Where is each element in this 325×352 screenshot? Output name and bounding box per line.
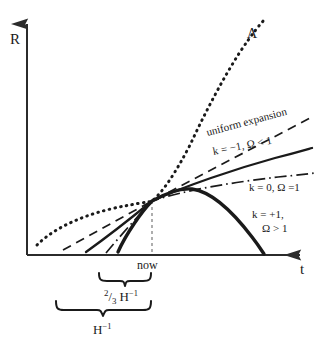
plot-canvas xyxy=(0,0,325,352)
k-positive-label-line1: k = +1, xyxy=(252,209,284,220)
brace-two-thirds-h-inverse xyxy=(99,273,151,286)
fraction-denominator: 3 xyxy=(112,296,116,306)
lambda-curve-label: Λ xyxy=(247,27,257,41)
hubble-symbol-full: H xyxy=(93,322,102,337)
two-thirds-h-inverse-label: 2/3 H−1 xyxy=(104,290,138,303)
hubble-exponent: −1 xyxy=(129,288,138,298)
now-tick-label: now xyxy=(137,259,158,271)
fraction-numerator: 2 xyxy=(104,288,108,298)
k-zero-label: k = 0, Ω =1 xyxy=(249,182,300,193)
hubble-exponent-full: −1 xyxy=(102,321,111,331)
curve-k-positive-closed xyxy=(118,189,264,254)
hubble-symbol: H xyxy=(120,289,129,304)
y-axis-label: R xyxy=(10,32,20,47)
x-axis-label: t xyxy=(300,262,304,277)
two-thirds-fraction: 2/3 xyxy=(104,290,116,304)
h-inverse-label: H−1 xyxy=(93,323,111,336)
cosmology-expansion-figure: R t Λ uniform expansion k = −1, Ω < 1 k … xyxy=(0,0,325,352)
k-positive-label-line2: Ω > 1 xyxy=(262,223,287,234)
